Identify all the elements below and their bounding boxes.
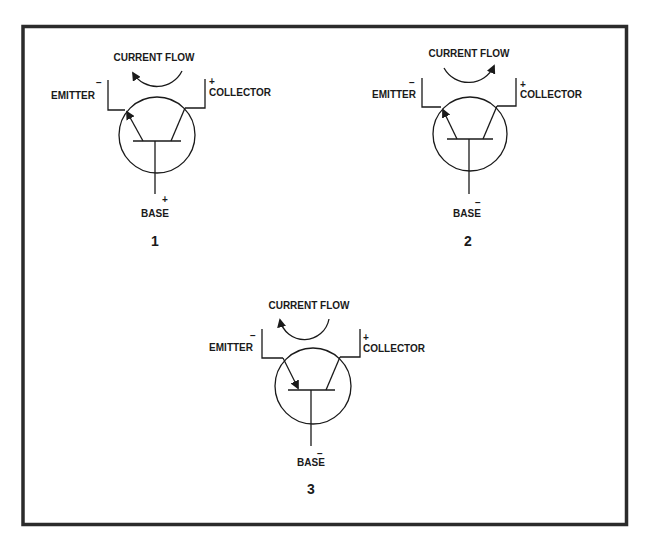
emitter-lead: [108, 80, 125, 110]
current-flow-label: CURRENT FLOW: [268, 300, 350, 311]
emitter-polarity: −: [96, 77, 102, 88]
emitter-lead: [422, 78, 441, 107]
transistor-figure: CURRENT FLOW − EMITTER + COLLECTOR + BAS…: [0, 0, 645, 546]
current-flow-arrow-icon: [280, 319, 329, 340]
collector-lead: [497, 78, 516, 106]
collector-label: COLLECTOR: [363, 343, 426, 354]
emitter-polarity: −: [409, 77, 415, 88]
transistor-envelope: [119, 97, 195, 173]
transistor-diagram-1: CURRENT FLOW − EMITTER + COLLECTOR + BAS…: [51, 52, 272, 249]
collector-label: COLLECTOR: [520, 89, 583, 100]
base-label: BASE: [141, 208, 169, 219]
collector-polarity: +: [363, 332, 369, 343]
current-flow-arrow-icon: [133, 71, 182, 86]
collector-line: [326, 357, 340, 390]
emitter-arrow-icon: [127, 112, 143, 141]
collector-label: COLLECTOR: [209, 87, 272, 98]
base-label: BASE: [297, 457, 325, 468]
transistor-diagram-2: CURRENT FLOW − EMITTER + COLLECTOR − BAS…: [372, 48, 583, 249]
emitter-lead: [262, 329, 283, 358]
collector-polarity: +: [209, 76, 215, 87]
collector-lead: [340, 329, 360, 357]
emitter-arrow-icon: [283, 358, 298, 388]
base-label: BASE: [453, 208, 481, 219]
collector-line: [171, 108, 185, 141]
base-polarity: −: [475, 197, 481, 208]
current-flow-label: CURRENT FLOW: [113, 52, 195, 63]
emitter-arrow-icon: [443, 110, 457, 139]
figure-frame: [23, 27, 627, 525]
diagram-number: 1: [151, 233, 159, 249]
current-flow-arrow-icon: [444, 66, 494, 82]
emitter-label: EMITTER: [51, 90, 96, 101]
collector-lead: [185, 79, 205, 108]
transistor-diagram-3: CURRENT FLOW − EMITTER + COLLECTOR − BAS…: [209, 300, 426, 497]
collector-line: [483, 106, 497, 139]
diagram-number: 2: [464, 233, 472, 249]
current-flow-label: CURRENT FLOW: [428, 48, 510, 59]
base-polarity: +: [162, 194, 168, 205]
emitter-label: EMITTER: [209, 342, 254, 353]
emitter-polarity: −: [250, 330, 256, 341]
emitter-label: EMITTER: [372, 89, 417, 100]
diagram-number: 3: [307, 481, 315, 497]
